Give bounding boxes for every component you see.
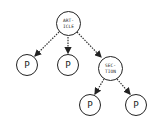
node-p4: P	[125, 94, 147, 116]
node-label: ICLE	[63, 24, 74, 30]
node-label: P	[24, 60, 29, 70]
node-p3: P	[79, 94, 101, 116]
node-label: TION	[105, 69, 116, 75]
node-section: SEC- TION	[98, 56, 123, 81]
node-label: P	[65, 60, 70, 70]
node-article: ART- ICLE	[56, 11, 81, 36]
edge-section-p3	[95, 79, 104, 94]
node-p2: P	[57, 54, 79, 76]
node-label: P	[87, 100, 92, 110]
node-label: P	[133, 100, 138, 110]
edge-article-section	[77, 32, 101, 57]
edge-article-p1	[35, 32, 59, 56]
edge-section-p4	[117, 79, 130, 94]
node-p1: P	[16, 54, 38, 76]
